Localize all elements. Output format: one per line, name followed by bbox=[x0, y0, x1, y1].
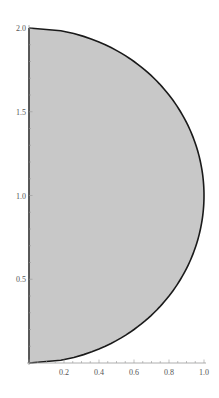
y-tick-label: 1.0 bbox=[16, 192, 26, 201]
x-tick-label: 0.8 bbox=[164, 368, 174, 377]
half-disk-region bbox=[29, 28, 204, 363]
y-tick-label: 1.5 bbox=[16, 108, 26, 117]
x-tick-label: 0.6 bbox=[129, 368, 139, 377]
half-disk-chart: 0.20.40.60.81.0 0.51.01.52.0 bbox=[0, 0, 219, 398]
x-axis: 0.20.40.60.81.0 bbox=[27, 360, 209, 378]
plot-area bbox=[29, 28, 204, 363]
x-tick-label: 1.0 bbox=[199, 368, 209, 377]
x-tick-label: 0.4 bbox=[94, 368, 104, 377]
y-tick-label: 2.0 bbox=[16, 24, 26, 33]
x-tick-label: 0.2 bbox=[59, 368, 69, 377]
y-tick-label: 0.5 bbox=[16, 275, 26, 284]
